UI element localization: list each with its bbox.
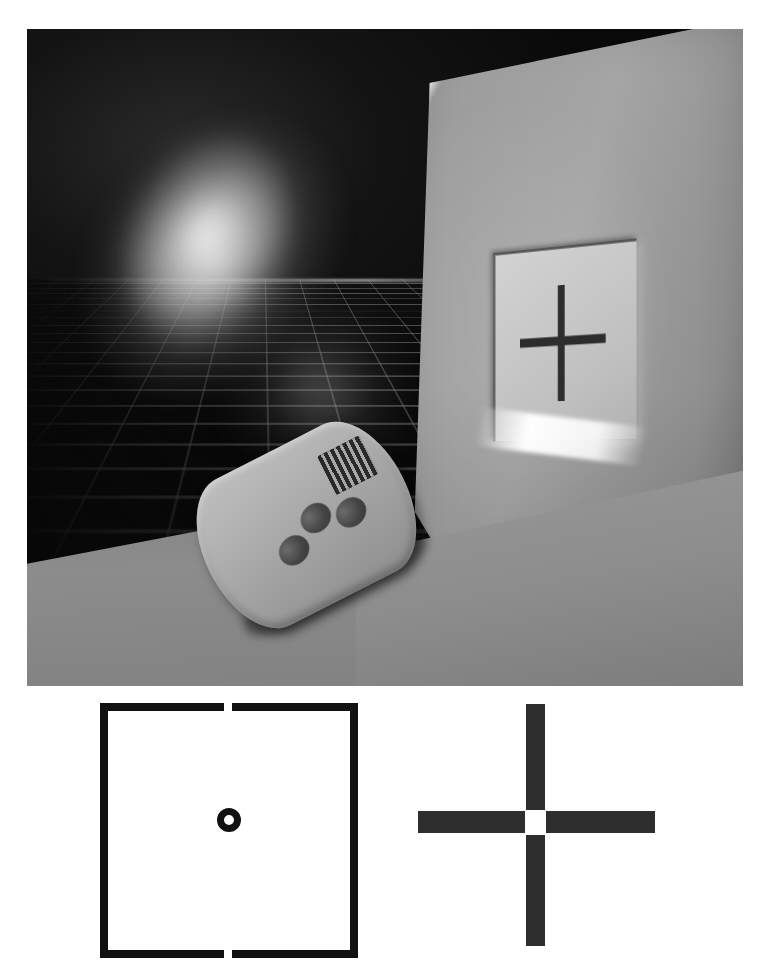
center-ring-marker: [217, 808, 241, 832]
square-top-edge-left-segment: [100, 703, 224, 711]
remote-button-1: [273, 529, 316, 572]
figure-page: [0, 0, 767, 975]
schematic-diagrams-row: [0, 690, 767, 975]
square-top-edge-right-segment: [232, 703, 358, 711]
square-bottom-edge-left-segment: [100, 950, 224, 958]
cross-target-diagram: [418, 704, 655, 946]
cross-horizontal-right-bar: [546, 811, 655, 833]
cross-vertical-upper-bar: [526, 704, 545, 810]
remote-button-3: [330, 491, 373, 534]
square-bottom-edge-right-segment: [232, 950, 358, 958]
rendered-scene-photo: [27, 29, 743, 686]
square-aperture-diagram: [100, 703, 358, 958]
cross-horizontal-left-bar: [418, 811, 525, 833]
speaker-grille-icon: [317, 435, 378, 494]
remote-button-2: [294, 496, 337, 539]
cross-vertical-lower-bar: [526, 835, 545, 946]
square-right-edge: [350, 703, 358, 958]
square-left-edge: [100, 703, 108, 958]
